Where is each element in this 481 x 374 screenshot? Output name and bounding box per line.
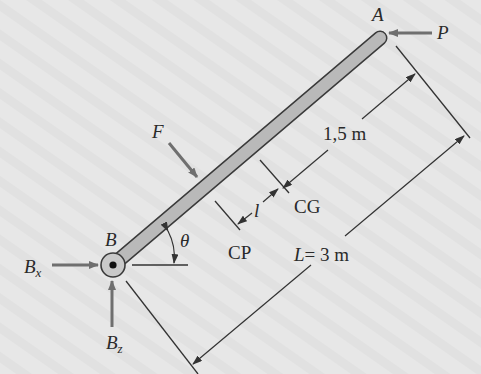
total-length-label: L= 3 m (294, 245, 349, 264)
angle-theta-label: θ (180, 231, 189, 250)
force-bx-sub: x (36, 265, 42, 280)
diagram-graphics (0, 0, 481, 374)
force-bx-main: B (24, 256, 36, 277)
total-length-value: = 3 m (305, 244, 350, 265)
point-a-label: A (372, 5, 384, 24)
force-f-label: F (152, 122, 164, 141)
force-p-label: P (437, 23, 449, 42)
force-bx-label: Bx (24, 257, 41, 279)
force-bz-sub: z (118, 341, 123, 356)
total-length-var: L (294, 244, 305, 265)
half-length-label: 1,5 m (323, 124, 366, 143)
cg-label: CG (294, 197, 320, 216)
pin-support-icon (101, 253, 125, 277)
rod-diagram: A P F B θ Bx Bz CP CG l 1,5 m L= 3 m (0, 0, 481, 374)
force-bz-main: B (106, 332, 118, 353)
cp-label: CP (228, 243, 251, 262)
paper-background (0, 0, 481, 374)
l-label: l (254, 201, 259, 220)
point-b-label: B (105, 230, 117, 249)
force-bz-label: Bz (106, 333, 123, 355)
